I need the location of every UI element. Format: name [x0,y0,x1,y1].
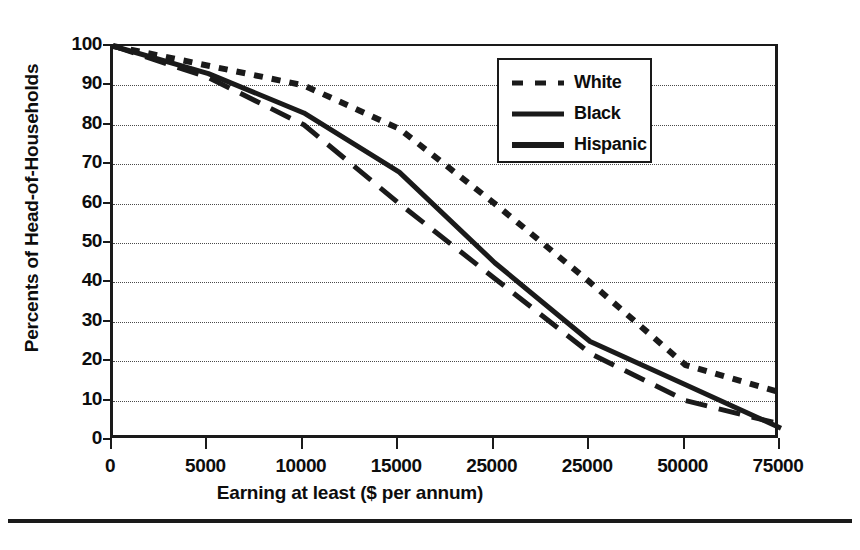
y-tick-label: 60 [46,191,102,213]
x-tick-label: 0 [105,455,115,477]
y-tick-label: 100 [46,33,102,55]
y-tick-label: 20 [46,348,102,370]
y-tick-label: 40 [46,269,102,291]
page-divider-rule [8,519,852,523]
y-tick-label: 90 [46,72,102,94]
legend-swatch-dashed-icon [510,107,566,121]
x-tick-label: 50000 [657,455,708,477]
x-tick-mark [396,438,398,449]
x-tick-label: 25000 [562,455,613,477]
legend-item-black: Black [499,98,650,129]
legend-swatch-dotted-icon [510,76,566,90]
x-tick-label: 15000 [371,455,422,477]
legend-label: Hispanic [574,134,647,155]
chart-legend: WhiteBlackHispanic [497,58,652,163]
y-tick-label: 70 [46,151,102,173]
legend-item-white: White [499,67,650,98]
y-tick-label: 0 [46,427,102,449]
legend-label: White [574,72,622,93]
x-tick-mark [492,438,494,449]
x-axis-title: Earning at least ($ per annum) [110,482,590,504]
x-axis-labels: 05000100001500025000250005000075000 [110,455,778,481]
y-axis-labels: 0102030405060708090100 [38,44,102,438]
x-tick-mark [110,438,112,449]
series-lines [113,46,781,440]
legend-item-hispanic: Hispanic [499,129,650,160]
plot-area [110,44,778,438]
x-tick-mark [205,438,207,449]
x-tick-mark [778,438,780,449]
legend-label: Black [574,103,621,124]
y-tick-label: 10 [46,388,102,410]
y-tick-label: 80 [46,112,102,134]
series-line-black [113,46,781,424]
x-tick-mark [587,438,589,449]
x-tick-label: 5000 [185,455,226,477]
x-tick-mark [301,438,303,449]
x-tick-label: 75000 [753,455,804,477]
x-axis-ticks [110,438,778,450]
x-tick-label: 25000 [466,455,517,477]
x-tick-label: 10000 [275,455,326,477]
figure-canvas: Percents of Head-of-Households 010203040… [0,0,860,550]
x-tick-mark [683,438,685,449]
y-tick-label: 30 [46,309,102,331]
legend-swatch-solid-icon [510,138,566,152]
y-tick-label: 50 [46,230,102,252]
series-line-hispanic [113,46,781,428]
